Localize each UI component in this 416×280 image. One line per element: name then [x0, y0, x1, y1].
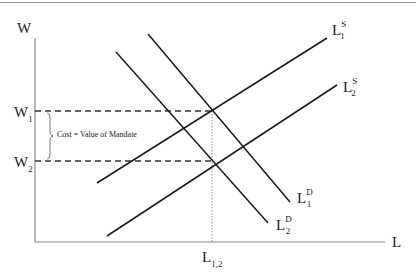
supply-1-label: LS1	[332, 19, 346, 41]
demand-2-label: LD2	[276, 214, 292, 236]
w2-label: W2	[14, 154, 33, 174]
demand-curve-2	[116, 52, 268, 223]
cost-annotation: Cost = Value of Mandate	[57, 130, 137, 139]
demand-curve-1	[148, 34, 290, 202]
cost-brace-icon	[47, 113, 53, 159]
x-axis-label: L	[392, 234, 401, 250]
y-axis-label: W	[17, 20, 32, 36]
supply-curve-2	[107, 85, 337, 236]
l12-label: L1,2	[202, 249, 222, 269]
w1-label: W1	[14, 104, 33, 124]
labor-market-diagram: W L W1 W2 L1,2 Cost = Value of Mandate L…	[0, 0, 416, 280]
supply-2-label: LS2	[343, 76, 357, 98]
demand-1-label: LD1	[297, 187, 313, 209]
